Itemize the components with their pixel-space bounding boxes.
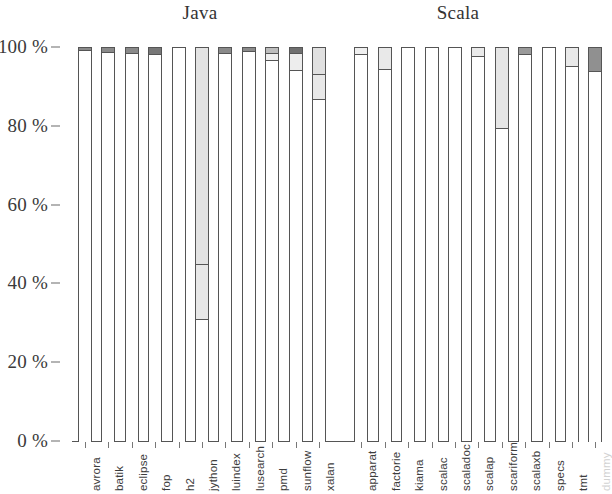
x-axis-label-eclipse: eclipse	[137, 454, 149, 491]
bar-segment	[290, 71, 302, 442]
bar-segment	[355, 55, 367, 442]
bar-factorie	[378, 47, 392, 442]
bar-segment	[472, 57, 484, 442]
bar-segment	[379, 48, 391, 70]
x-axis-label-factorie: factorie	[390, 452, 402, 491]
x-tick-mark	[296, 442, 297, 448]
bar-segment	[449, 48, 461, 442]
bar-fop	[148, 47, 162, 442]
bar-segment	[589, 72, 601, 442]
x-axis-label-jython: jython	[207, 459, 219, 491]
x-axis-label-h2: h2	[184, 478, 196, 491]
bar-luindex	[218, 47, 232, 442]
x-tick-mark	[179, 442, 180, 448]
bar-segment	[290, 54, 302, 71]
x-axis-label-lusearch: lusearch	[254, 446, 266, 491]
bar-segment	[402, 48, 414, 442]
bar-segment	[173, 48, 185, 442]
x-tick-mark	[432, 442, 433, 448]
bar-dummy	[588, 47, 602, 442]
bar-avrora	[78, 47, 92, 442]
x-axis-label-luindex: luindex	[230, 453, 242, 491]
bar-segment	[196, 265, 208, 320]
bar-scalac	[425, 47, 439, 442]
bar-apparat	[354, 47, 368, 442]
bar-segment	[496, 48, 508, 129]
y-tick-mark	[51, 362, 60, 363]
y-axis: 0 %20 %40 %60 %80 %100 %	[0, 0, 60, 494]
x-axis-label-scalac: scalac	[437, 457, 449, 491]
bar-jython	[195, 47, 209, 442]
x-axis-label-sunflow: sunflow	[301, 451, 313, 491]
x-tick-mark	[319, 442, 320, 448]
x-tick-mark	[455, 442, 456, 448]
x-tick-mark	[549, 442, 550, 448]
x-axis-label-tmt: tmt	[577, 474, 589, 491]
bar-segment	[126, 54, 138, 442]
x-tick-mark	[385, 442, 386, 448]
x-tick-mark	[132, 442, 133, 448]
bar-lusearch	[242, 47, 256, 442]
y-tick-mark	[51, 125, 60, 126]
x-axis-label-scalap: scalap	[483, 457, 495, 491]
x-axis-label-xalan: xalan	[324, 463, 336, 492]
bar-segment	[266, 54, 278, 62]
y-tick-label: 100 %	[0, 36, 48, 58]
bar-scalap	[471, 47, 485, 442]
x-axis-label-specs: specs	[554, 460, 566, 491]
bar-segment	[355, 48, 367, 55]
x-tick-mark	[595, 442, 596, 448]
bar-h2	[172, 47, 186, 442]
bar-segment	[149, 55, 161, 442]
bar-segment	[426, 48, 438, 442]
bar-segment	[79, 51, 91, 442]
bar-segment	[496, 129, 508, 442]
y-tick-label: 60 %	[8, 194, 48, 216]
y-tick-mark	[51, 47, 60, 48]
x-tick-mark	[249, 442, 250, 448]
x-tick-mark	[525, 442, 526, 448]
x-axis-label-scaladoc: scaladoc	[460, 444, 472, 491]
x-tick-mark	[272, 442, 273, 448]
bar-segment	[566, 48, 578, 67]
x-axis-label-apparat: apparat	[366, 451, 378, 491]
bar-scaladoc	[448, 47, 462, 442]
bar-scalaxb	[518, 47, 532, 442]
bar-segment	[243, 52, 255, 442]
bar-segment	[379, 70, 391, 442]
y-tick-label: 0 %	[17, 430, 48, 452]
x-tick-mark	[502, 442, 503, 448]
y-tick-label: 40 %	[8, 272, 48, 294]
bar-segment	[519, 55, 531, 442]
x-tick-mark	[85, 442, 86, 448]
y-tick-mark	[51, 441, 60, 442]
y-tick-mark	[51, 283, 60, 284]
x-tick-mark	[361, 442, 362, 448]
y-tick-label: 20 %	[8, 351, 48, 373]
bar-scariform	[495, 47, 509, 442]
bar-segment	[149, 48, 161, 55]
bar-segment	[519, 48, 531, 55]
x-axis-label-scalaxb: scalaxb	[530, 451, 542, 491]
x-tick-mark	[572, 442, 573, 448]
x-tick-mark	[202, 442, 203, 448]
bar-segment	[589, 48, 601, 72]
bar-segment	[196, 320, 208, 442]
bar-segment	[313, 75, 325, 100]
bar-xalan	[312, 47, 326, 442]
x-axis-label-batik: batik	[113, 466, 125, 491]
bar-segment	[102, 53, 114, 442]
x-tick-mark	[478, 442, 479, 448]
plot-area: avrorabatikeclipsefoph2jythonluindexluse…	[72, 0, 579, 494]
bar-segment	[313, 48, 325, 75]
bar-kiama	[401, 47, 415, 442]
bar-eclipse	[125, 47, 139, 442]
bar-segment	[266, 61, 278, 442]
bar-sunflow	[289, 47, 303, 442]
bar-segment	[196, 48, 208, 265]
bar-segment	[566, 67, 578, 442]
bar-segment	[543, 48, 555, 442]
bar-specs	[542, 47, 556, 442]
bar-batik	[101, 47, 115, 442]
